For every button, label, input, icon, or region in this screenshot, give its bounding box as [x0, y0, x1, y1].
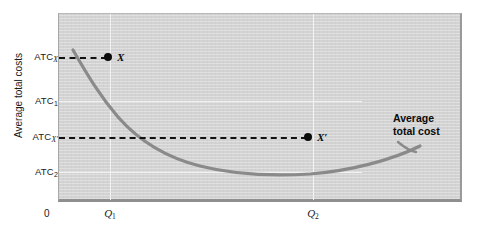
gridline-horizontal-atc2 [59, 172, 362, 173]
data-point-x-prime [304, 133, 312, 141]
y-tick-sub-atc-1: 1 [54, 100, 58, 107]
y-tick-label-atc-x-prime: ATCX′ [0, 131, 58, 142]
x-tick-label-q1: Q1 [90, 207, 130, 219]
atc-cost-curve-figure: X X′ Average total cost ATCX ATC1 ATCX′ … [0, 0, 480, 227]
gridline-horizontal-atc1 [59, 101, 362, 102]
y-axis-title: Average total costs [13, 26, 24, 166]
y-tick-label-atc-2: ATC2 [0, 166, 58, 177]
x-tick-base-q2: Q [307, 207, 315, 219]
drop-line-point-x-prime [309, 139, 310, 173]
plot-area [58, 13, 462, 202]
y-tick-base-atc-x-prime: ATC [32, 131, 51, 142]
curve-annotation: Average total cost [393, 112, 440, 138]
gridline-vertical-q1 [110, 14, 111, 200]
drop-line-point-x [108, 59, 109, 101]
guide-line-atc-x [59, 57, 107, 59]
x-tick-label-q2: Q2 [293, 207, 333, 219]
y-tick-label-atc-x: ATCX [0, 51, 58, 62]
data-point-x-label: X [117, 51, 124, 63]
y-tick-base-atc-2: ATC [35, 166, 54, 177]
data-point-x-prime-label: X′ [317, 131, 327, 143]
guide-line-atc-x-prime [59, 137, 307, 139]
y-tick-label-atc-1: ATC1 [0, 95, 58, 106]
x-tick-sub-q2: 2 [315, 212, 319, 221]
y-tick-sub-atc-x-prime: X′ [51, 135, 58, 144]
x-tick-label-origin: 0 [44, 208, 50, 219]
y-tick-base-atc-1: ATC [35, 95, 54, 106]
curve-annotation-line-2: total cost [393, 125, 440, 138]
curve-annotation-line-1: Average [393, 112, 440, 125]
y-tick-base-atc-x: ATC [34, 51, 53, 62]
data-point-x [104, 53, 112, 61]
gridline-vertical-q2 [313, 14, 314, 200]
x-tick-base-q1: Q [104, 207, 112, 219]
y-tick-sub-atc-x: X [53, 55, 58, 64]
y-tick-sub-atc-2: 2 [54, 171, 58, 178]
x-tick-sub-q1: 1 [112, 212, 116, 221]
